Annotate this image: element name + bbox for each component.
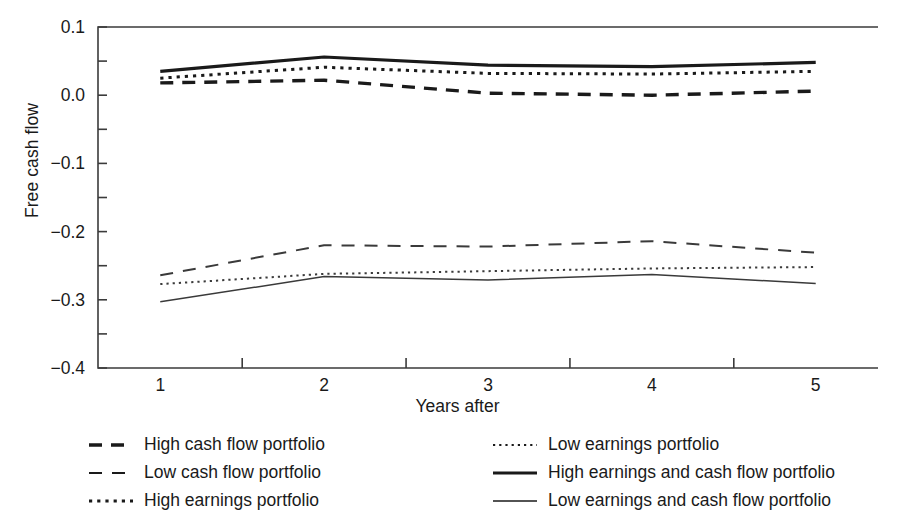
x-axis-tick-labels: 12345 bbox=[155, 375, 820, 395]
x-axis-title: Years after bbox=[0, 396, 915, 417]
legend-line-swatch-icon bbox=[492, 437, 538, 453]
legend-item-label: Low earnings and cash flow portfolio bbox=[548, 488, 831, 513]
legend-item-label: High earnings portfolio bbox=[144, 488, 319, 513]
svg-text:3: 3 bbox=[483, 375, 493, 395]
svg-text:−0.3: −0.3 bbox=[50, 290, 85, 310]
legend-line-swatch-icon bbox=[492, 465, 538, 481]
figure: 0.10.0−0.1−0.2−0.3−0.4 12345 Free cash f… bbox=[0, 0, 915, 531]
svg-text:−0.1: −0.1 bbox=[50, 153, 85, 173]
legend-item: High earnings and cash flow portfolio bbox=[492, 460, 912, 485]
legend-line-swatch-icon bbox=[88, 493, 134, 509]
legend-column-left: High cash flow portfolioLow cash flow po… bbox=[88, 432, 488, 516]
series-line bbox=[160, 267, 815, 284]
legend-item-label: Low cash flow portfolio bbox=[144, 460, 321, 485]
series-line bbox=[160, 67, 815, 78]
y-axis-title: Free cash flow bbox=[22, 51, 43, 271]
svg-text:4: 4 bbox=[647, 375, 657, 395]
legend-column-right: Low earnings portfolioHigh earnings and … bbox=[492, 432, 912, 516]
series-line bbox=[160, 275, 815, 302]
series-line bbox=[160, 241, 815, 275]
series-line bbox=[160, 80, 815, 95]
legend-item: Low earnings portfolio bbox=[492, 432, 912, 457]
svg-text:0.1: 0.1 bbox=[61, 17, 85, 37]
series-line bbox=[160, 57, 815, 71]
legend-line-swatch-icon bbox=[492, 493, 538, 509]
legend-item: High earnings portfolio bbox=[88, 488, 488, 513]
svg-text:−0.4: −0.4 bbox=[50, 358, 85, 378]
axis-frame bbox=[98, 27, 878, 368]
y-axis-tick-labels: 0.10.0−0.1−0.2−0.3−0.4 bbox=[50, 17, 85, 378]
legend-item-label: High earnings and cash flow portfolio bbox=[548, 460, 835, 485]
svg-text:−0.2: −0.2 bbox=[50, 222, 85, 242]
data-series-group bbox=[160, 57, 815, 302]
legend-item: Low earnings and cash flow portfolio bbox=[492, 488, 912, 513]
legend-item-label: High cash flow portfolio bbox=[144, 432, 325, 457]
legend-item: High cash flow portfolio bbox=[88, 432, 488, 457]
legend-item-label: Low earnings portfolio bbox=[548, 432, 719, 457]
plot-area: 0.10.0−0.1−0.2−0.3−0.4 12345 Free cash f… bbox=[0, 0, 915, 430]
legend: High cash flow portfolioLow cash flow po… bbox=[0, 432, 915, 531]
legend-line-swatch-icon bbox=[88, 465, 134, 481]
svg-text:0.0: 0.0 bbox=[61, 85, 86, 105]
chart-svg: 0.10.0−0.1−0.2−0.3−0.4 12345 bbox=[0, 0, 915, 430]
svg-text:1: 1 bbox=[155, 375, 165, 395]
legend-item: Low cash flow portfolio bbox=[88, 460, 488, 485]
svg-text:2: 2 bbox=[319, 375, 329, 395]
svg-text:5: 5 bbox=[811, 375, 821, 395]
legend-line-swatch-icon bbox=[88, 437, 134, 453]
